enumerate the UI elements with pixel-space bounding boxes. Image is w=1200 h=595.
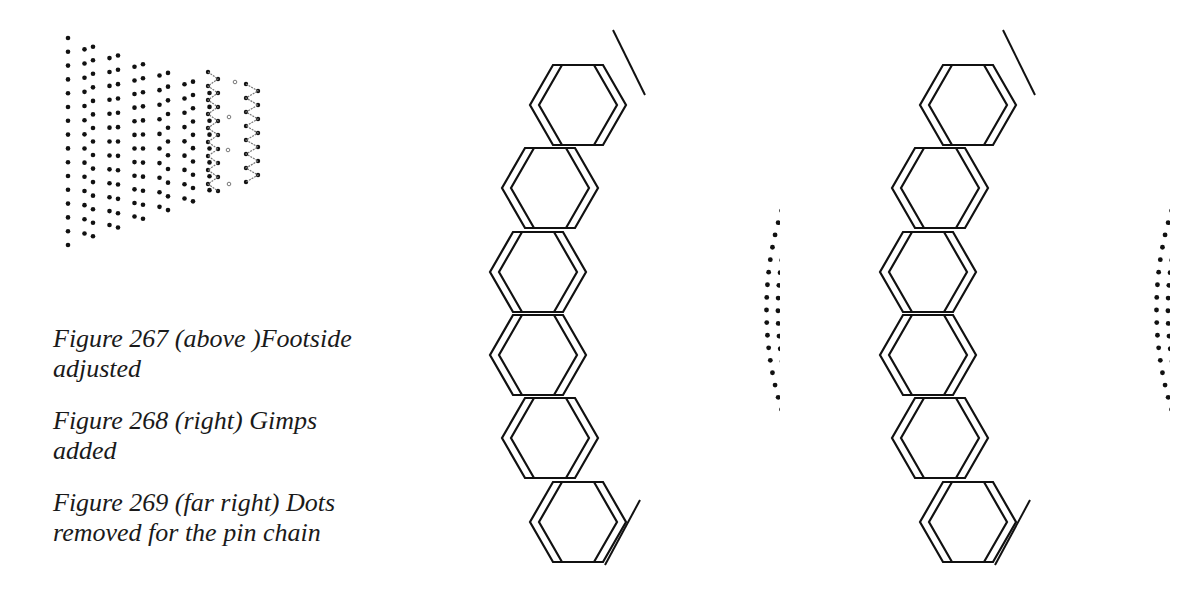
pricking-diagram-267 — [0, 0, 300, 260]
pin-dot — [66, 91, 71, 96]
pin-dot — [82, 118, 87, 123]
pin-dot — [141, 188, 146, 193]
pin-dot — [91, 166, 96, 171]
pin-dot — [1163, 233, 1168, 238]
pin-dot — [141, 132, 146, 137]
pin-dot — [765, 333, 770, 338]
pin-dot — [207, 105, 212, 110]
pin-dot — [82, 47, 87, 52]
pin-dot — [82, 189, 87, 194]
captions: Figure 267 (above )Footside adjusted Fig… — [53, 324, 353, 570]
pricking-diagram-268 — [480, 0, 780, 595]
pin-dot — [764, 320, 769, 325]
pin-dot — [91, 44, 96, 49]
pin-dot — [66, 201, 71, 206]
pin-dot — [207, 188, 212, 193]
pin-dot — [157, 205, 162, 210]
pin-dot — [66, 188, 71, 193]
pin-dot — [66, 50, 71, 55]
pin-dot — [166, 84, 171, 89]
figure-268-gimps-added — [480, 0, 780, 595]
pin-dot — [157, 88, 162, 93]
pin-dot — [116, 96, 121, 101]
pin-dot — [773, 383, 778, 388]
pin-dot — [141, 160, 146, 165]
pin-dot — [191, 93, 196, 98]
pin-dot — [1166, 308, 1170, 313]
pin-dot — [66, 146, 71, 151]
pin-dot — [82, 175, 87, 180]
figure-267-footside-adjusted — [0, 0, 300, 260]
pin-dot — [776, 296, 780, 301]
pin-dot — [116, 168, 121, 173]
pin-dot — [116, 111, 121, 116]
pin-dot — [66, 229, 71, 234]
pin-dot — [1168, 346, 1170, 351]
pin-dot — [82, 203, 87, 208]
pin-dot — [91, 153, 96, 158]
pin-dot — [107, 84, 112, 89]
pin-dot — [777, 334, 780, 339]
pin-dot — [82, 132, 87, 137]
pin-dot — [207, 146, 212, 151]
pin-dot — [1166, 220, 1170, 225]
pin-dot — [1169, 258, 1170, 263]
pin-dot — [116, 154, 121, 159]
pin-dot — [157, 102, 162, 107]
pin-dot — [107, 223, 112, 228]
pin-dot — [182, 196, 187, 201]
caption-figure-269: Figure 269 (far right) Dots removed for … — [53, 488, 353, 548]
pin-dot — [157, 117, 162, 122]
figure-269-dots-removed — [870, 0, 1170, 595]
pin-dot — [91, 234, 96, 239]
pin-dot — [166, 180, 171, 185]
pin-dot — [766, 270, 771, 275]
pin-dot — [82, 231, 87, 236]
pin-dot — [1160, 245, 1165, 250]
pin-dot — [191, 106, 196, 111]
pin-dot — [776, 283, 780, 288]
caption-267-line-2: adjusted — [53, 354, 353, 384]
pin-dot — [1167, 334, 1170, 339]
pin-dot — [166, 98, 171, 103]
marker-x — [226, 148, 230, 152]
pin-dot — [776, 308, 780, 313]
pin-dot — [132, 65, 137, 70]
pin-dot — [1154, 295, 1159, 300]
pin-dot — [116, 197, 121, 202]
pin-dot — [182, 125, 187, 130]
gimp-thread — [499, 65, 617, 562]
pin-dot — [107, 153, 112, 158]
gimp-thread — [889, 65, 1007, 562]
pin-dot — [132, 119, 137, 124]
pin-dot — [191, 146, 196, 151]
pin-dot — [1166, 283, 1170, 288]
pin-dot — [773, 233, 778, 238]
pin-dot — [1158, 358, 1163, 363]
pin-dot — [157, 175, 162, 180]
pin-dot — [1169, 407, 1170, 412]
pin-dot — [191, 199, 196, 204]
pin-dot — [66, 63, 71, 68]
pin-dot — [1158, 257, 1163, 262]
pin-dot — [116, 211, 121, 216]
pin-dot — [1169, 208, 1170, 213]
pin-dot — [157, 146, 162, 151]
pin-dot — [107, 56, 112, 61]
pin-dot — [166, 139, 171, 144]
pin-dot — [776, 395, 780, 400]
pricking-diagram-269 — [870, 0, 1170, 595]
pin-dot — [1154, 308, 1159, 313]
pin-dot — [66, 174, 71, 179]
pin-dot — [66, 215, 71, 220]
pin-dot — [1166, 321, 1170, 326]
pin-dot — [91, 72, 96, 77]
pin-dot — [116, 139, 121, 144]
pin-dot — [166, 208, 171, 213]
pin-dot — [132, 201, 137, 206]
pin-dot — [182, 153, 187, 158]
pin-dot — [779, 208, 780, 213]
pin-dot — [207, 118, 212, 123]
pin-dot — [91, 85, 96, 90]
pin-dot — [1154, 320, 1159, 325]
